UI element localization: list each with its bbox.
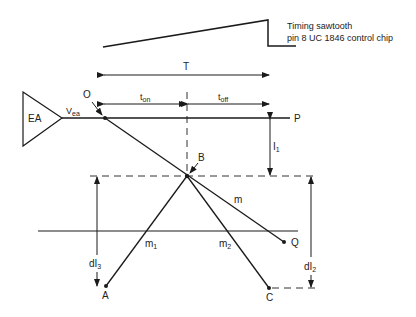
sawtooth-label-line2: pin 8 UC 1846 control chip bbox=[287, 33, 393, 43]
slope-m-line bbox=[105, 118, 284, 242]
point-b-pointer bbox=[190, 163, 198, 173]
point-q-label: Q bbox=[291, 237, 299, 248]
slope-m2-label: m2 bbox=[219, 238, 231, 250]
slope-m2-line bbox=[187, 176, 269, 288]
di2-label: dI2 bbox=[304, 261, 316, 273]
sawtooth-label-line1: Timing sawtooth bbox=[287, 21, 352, 31]
amplifier-label: EA bbox=[28, 113, 42, 124]
point-a-label: A bbox=[102, 290, 109, 301]
point-b-label: B bbox=[198, 152, 205, 163]
current-mode-slope-diagram: Timing sawtooth pin 8 UC 1846 control ch… bbox=[0, 0, 416, 317]
period-label: T bbox=[183, 61, 189, 72]
point-a-dot bbox=[104, 284, 108, 288]
point-o-label: O bbox=[83, 89, 91, 100]
vea-label: Vea bbox=[66, 106, 80, 117]
point-p-label: P bbox=[294, 113, 301, 124]
point-c-label: C bbox=[266, 292, 273, 303]
toff-label: toff bbox=[218, 92, 228, 103]
point-o-pointer bbox=[92, 102, 102, 115]
di3-label: dI3 bbox=[89, 258, 101, 270]
point-c-dot bbox=[267, 286, 271, 290]
timing-sawtooth-waveform bbox=[103, 20, 296, 47]
slope-m-label: m bbox=[234, 194, 242, 205]
slope-m1-label: m1 bbox=[145, 238, 157, 250]
point-q-dot bbox=[282, 240, 286, 244]
i1-label: I1 bbox=[273, 141, 280, 153]
ton-label: ton bbox=[140, 92, 150, 103]
